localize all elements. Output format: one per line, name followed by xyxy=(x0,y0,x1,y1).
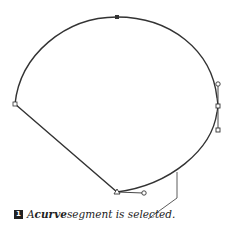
figure-caption: 1 A curve segment is selected. xyxy=(14,208,175,220)
direction-line-bottom xyxy=(117,192,143,193)
caption-suffix: segment is selected. xyxy=(67,208,175,220)
anchor-point-right[interactable] xyxy=(216,104,220,108)
direction-handle-bottom[interactable] xyxy=(142,191,146,195)
anchor-point-left[interactable] xyxy=(13,102,17,106)
caption-prefix: A xyxy=(27,208,35,220)
direction-handle-right-bottom[interactable] xyxy=(216,128,220,132)
path-diagram xyxy=(0,0,234,228)
direction-handle-right-top[interactable] xyxy=(216,82,220,86)
caption-emphasis: curve xyxy=(35,208,67,220)
step-number-badge: 1 xyxy=(14,210,23,219)
anchor-point-top[interactable] xyxy=(115,15,119,19)
curve-path xyxy=(15,17,217,192)
